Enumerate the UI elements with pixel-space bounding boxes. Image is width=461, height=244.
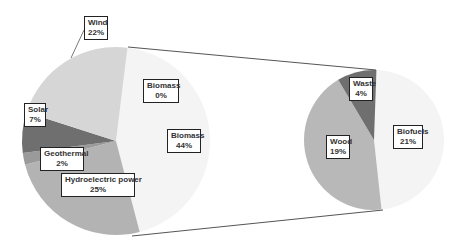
label-hydroelectric: Hydroelectric power 25% bbox=[61, 173, 135, 197]
label-hydroelectric-name: Hydroelectric power bbox=[65, 175, 131, 185]
label-geothermal-name: Geothermal bbox=[44, 149, 80, 159]
label-wood-pct: 19% bbox=[330, 147, 346, 157]
label-wind-pct: 22% bbox=[88, 28, 104, 38]
label-biomass-0-pct: 0% bbox=[147, 91, 175, 101]
label-geothermal: Geothermal 2% bbox=[40, 147, 84, 171]
label-biofuels-pct: 21% bbox=[397, 137, 419, 147]
label-biomass-44: Biomass 44% bbox=[167, 129, 201, 153]
label-hydroelectric-pct: 25% bbox=[65, 185, 131, 195]
label-solar-name: Solar bbox=[28, 105, 42, 115]
label-waste: Waste 4% bbox=[349, 77, 373, 101]
pie-of-pie-chart bbox=[0, 0, 461, 244]
label-wind: Wind 22% bbox=[84, 16, 108, 40]
label-biomass-0: Biomass 0% bbox=[143, 79, 179, 103]
label-wood: Wood 19% bbox=[326, 135, 350, 159]
label-biomass-44-pct: 44% bbox=[171, 141, 197, 151]
label-geothermal-pct: 2% bbox=[44, 159, 80, 169]
label-wind-name: Wind bbox=[88, 18, 104, 28]
label-wood-name: Wood bbox=[330, 137, 346, 147]
label-solar-pct: 7% bbox=[28, 115, 42, 125]
label-solar: Solar 7% bbox=[24, 103, 46, 127]
label-biomass-44-name: Biomass bbox=[171, 131, 197, 141]
label-biomass-0-name: Biomass bbox=[147, 81, 175, 91]
label-biofuels-name: Biofuels bbox=[397, 127, 419, 137]
label-waste-pct: 4% bbox=[353, 89, 369, 99]
label-biofuels: Biofuels 21% bbox=[393, 125, 423, 149]
label-waste-name: Waste bbox=[353, 79, 369, 89]
